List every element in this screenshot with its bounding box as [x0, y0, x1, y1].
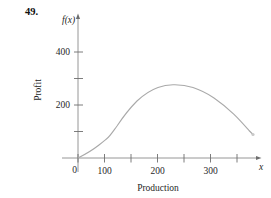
y-axis [76, 14, 80, 173]
chart-svg: 400 200 0 100 200 300 f(x) x Production … [0, 0, 271, 198]
y-tick-label-200: 200 [56, 100, 71, 110]
figure-container: 49. [0, 0, 271, 198]
x-tick-label-300: 300 [203, 166, 218, 176]
x-tick-label-0: 0 [72, 165, 77, 175]
x-tick-label-100: 100 [97, 166, 112, 176]
y-axis-ticks [74, 52, 83, 132]
x-axis-variable-label: x [258, 162, 264, 172]
y-axis-variable-label: f(x) [62, 15, 75, 26]
y-axis-arrowhead-icon [76, 14, 80, 20]
profit-curve [78, 85, 253, 158]
x-axis [62, 156, 262, 160]
x-axis-arrowhead-icon [256, 156, 262, 160]
x-axis-title: Production [137, 183, 179, 193]
y-tick-label-400: 400 [56, 47, 71, 57]
y-axis-title: Profit [33, 79, 43, 101]
curve-endpoint-marker [251, 133, 254, 136]
x-tick-label-200: 200 [150, 166, 165, 176]
